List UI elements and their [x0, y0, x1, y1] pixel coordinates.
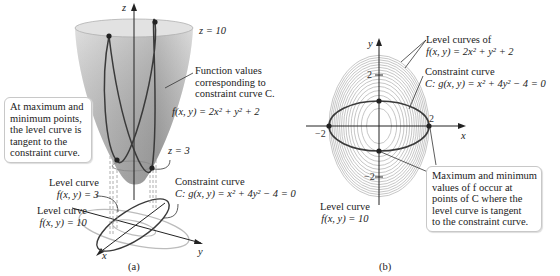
y-axis-label-b: y — [368, 38, 373, 50]
tick-label-xneg2: −2 — [315, 128, 326, 139]
tangent-point — [376, 148, 381, 153]
x-axis-arrow-icon-b — [458, 123, 466, 129]
y-axis-arrow-icon-b — [376, 38, 382, 46]
tick-label-y2: 2 — [367, 69, 372, 80]
tangent-point — [326, 123, 331, 128]
level-curve-10-label-b: Level curve f(x, y) = 10 — [320, 201, 370, 224]
callout-tangent-b: Maximum and minimum values of f occur at… — [426, 166, 542, 232]
tick-label-x2: 2 — [429, 113, 434, 124]
constraint-label-b: Constraint curve C: g(x, y) = x² + 4y² −… — [425, 66, 546, 89]
level-curves-label: Level curves of f(x, y) = 2x² + y² + 2 — [426, 34, 514, 57]
tangent-point — [376, 98, 381, 103]
tick-label-yneg2: −2 — [364, 171, 375, 182]
caption-b: (b) — [379, 261, 391, 272]
x-axis-label-b: x — [461, 130, 466, 142]
tangent-point — [426, 123, 431, 128]
